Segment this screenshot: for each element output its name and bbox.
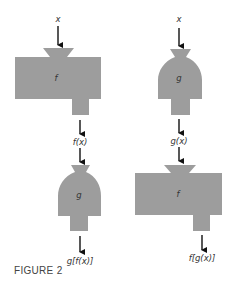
- right-input-label: x: [175, 14, 182, 24]
- figure-caption: FIGURE 2: [14, 265, 63, 276]
- left-f-machine: f: [15, 48, 101, 115]
- right-g-machine-label: g: [176, 73, 182, 83]
- left-column: x f f(x) g g[f(x)]: [15, 14, 101, 266]
- left-g-machine-label: g: [76, 190, 82, 200]
- right-output-label: f[g(x)]: [189, 253, 216, 263]
- left-intermediate-label: f(x): [73, 137, 88, 147]
- left-output-label: g[f(x)]: [67, 256, 94, 266]
- right-column: x g g(x) f f[g(x)]: [135, 14, 222, 263]
- left-g-machine: g: [58, 165, 101, 231]
- right-g-machine: g: [158, 49, 202, 115]
- left-input-label: x: [54, 14, 61, 24]
- right-f-machine: f: [135, 165, 222, 231]
- right-intermediate-label: g(x): [170, 136, 187, 146]
- composition-diagram: x f f(x) g g[f(x)] x g g(x): [0, 0, 237, 285]
